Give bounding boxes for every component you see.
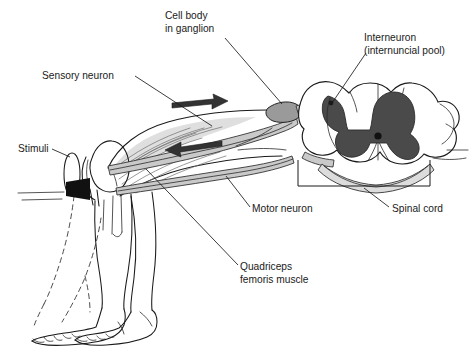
label-line: femoris muscle [240, 274, 309, 285]
label-quadriceps-femoris-muscle: Quadriceps femoris muscle [240, 261, 309, 285]
label-line: Sensory neuron [42, 70, 114, 81]
label-line: Interneuron [364, 32, 416, 43]
label-line: Stimuli [18, 143, 49, 154]
reflex-hammer [18, 153, 90, 200]
leader-motor-neuron [226, 176, 250, 207]
hammer-head [66, 178, 90, 200]
ganglion-body [266, 102, 301, 122]
central-canal [374, 132, 381, 139]
afferent-arrow [172, 94, 228, 109]
lower-leg-foot-resting [32, 194, 132, 345]
second-leg [75, 192, 157, 345]
label-stimuli: Stimuli [18, 143, 49, 154]
leader-stimuli [52, 149, 70, 157]
leg-kick-dashed-outline [34, 196, 101, 326]
label-cell-body-in-ganglion: Cell body in ganglion [165, 10, 214, 34]
label-spinal-cord: Spinal cord [392, 203, 443, 214]
leader-cell-body [225, 38, 282, 104]
spinal-cord-cross-section [299, 82, 468, 193]
label-motor-neuron: Motor neuron [252, 203, 313, 214]
label-line: Cell body [165, 10, 208, 21]
ventral-rootlets [318, 164, 434, 193]
label-sensory-neuron: Sensory neuron [42, 70, 114, 81]
label-line: (internuncial pool) [364, 45, 445, 56]
patellar-reflex-figure: Cell body in ganglion Interneuron (inter… [0, 0, 470, 349]
label-line: in ganglion [165, 23, 214, 34]
reflex-arc-illustration: Cell body in ganglion Interneuron (inter… [0, 0, 470, 349]
label-line: Spinal cord [392, 203, 443, 214]
label-line: Quadriceps [240, 261, 292, 272]
label-interneuron: Interneuron (internuncial pool) [364, 32, 445, 56]
label-line: Motor neuron [252, 203, 313, 214]
